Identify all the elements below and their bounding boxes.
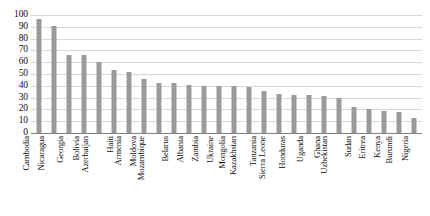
x-axis: CambodiaNicaraguaGeorgiaBoliviaAzerbaija…: [31, 136, 422, 216]
bar-slot: [151, 15, 166, 133]
x-axis-tick-label: Nigeria: [402, 136, 411, 161]
bar-slot: [392, 15, 407, 133]
x-axis-tick-label: Burundi: [386, 136, 395, 163]
bar: [111, 70, 116, 133]
bar: [81, 55, 86, 133]
bar-slot: [272, 15, 287, 133]
x-axis-tick-label: Cambodia: [21, 136, 30, 171]
y-axis-tick-label: 30: [0, 93, 28, 103]
x-axis-tick-label: Honduras: [278, 136, 287, 169]
bar: [292, 95, 297, 133]
bar: [96, 62, 101, 133]
x-axis-tick-label: Mongolia: [218, 136, 227, 169]
bar-slot: [407, 15, 422, 133]
x-axis-tick-label: Mozambique: [137, 136, 146, 180]
x-axis-tick-label: Uzbekistan: [320, 136, 329, 174]
plot-area: [31, 15, 422, 133]
bar-slot: [377, 15, 392, 133]
bar: [322, 96, 327, 133]
y-axis-tick-label: 100: [0, 10, 28, 20]
y-axis-tick-label: 10: [0, 116, 28, 126]
bar: [186, 85, 191, 133]
bar: [412, 118, 417, 133]
bar-slot: [106, 15, 121, 133]
bar: [156, 83, 161, 133]
x-axis-tick-label: Sierra Leone: [258, 136, 267, 179]
y-axis-tick-label: 40: [0, 81, 28, 91]
bar: [171, 83, 176, 133]
y-axis: 0102030405060708090100: [0, 0, 28, 140]
x-axis-tick-label: Kenya: [373, 136, 382, 158]
bar-slot: [76, 15, 91, 133]
bar: [216, 86, 221, 133]
x-axis-tick-label: Azerbaijan: [80, 136, 89, 173]
bar-slot: [302, 15, 317, 133]
bar-slot: [46, 15, 61, 133]
bar-slot: [91, 15, 106, 133]
y-axis-tick-label: 20: [0, 104, 28, 114]
y-axis-tick-label: 80: [0, 34, 28, 44]
bar: [382, 111, 387, 133]
bar-slot: [242, 15, 257, 133]
x-axis-tick-label: Armenia: [114, 136, 123, 165]
chart-plot-wrapper: 0102030405060708090100 CambodiaNicaragua…: [0, 0, 430, 216]
y-axis-tick-label: 50: [0, 69, 28, 79]
x-axis-tick-label: Georgia: [55, 136, 64, 163]
bar-slot: [121, 15, 136, 133]
bar-slot: [227, 15, 242, 133]
bar-slot: [61, 15, 76, 133]
bar: [337, 98, 342, 133]
y-axis-tick-label: 70: [0, 45, 28, 55]
bar-slot: [317, 15, 332, 133]
bar: [66, 55, 71, 133]
bar: [126, 72, 131, 133]
bar: [232, 86, 237, 133]
x-axis-tick-label: Sudan: [344, 136, 353, 157]
bar: [201, 86, 206, 133]
bar: [307, 95, 312, 133]
bar-slot: [347, 15, 362, 133]
x-axis-tick-label: Eritrea: [358, 136, 367, 159]
bar-slot: [332, 15, 347, 133]
y-axis-tick-label: 90: [0, 22, 28, 32]
bar: [352, 107, 357, 133]
bar-slot: [166, 15, 181, 133]
bar-slot: [211, 15, 226, 133]
bar: [51, 26, 56, 133]
bar: [397, 112, 402, 133]
bar: [262, 91, 267, 133]
bar-slot: [136, 15, 151, 133]
y-axis-tick-label: 60: [0, 57, 28, 67]
bar: [36, 19, 41, 133]
bar-slot: [287, 15, 302, 133]
x-axis-tick-label: Kazakhstan: [230, 136, 239, 175]
x-axis-tick-label: Belarus: [161, 136, 170, 162]
bar-slot: [31, 15, 46, 133]
bar-slot: [196, 15, 211, 133]
bar: [247, 87, 252, 133]
bar-chart: 0102030405060708090100 CambodiaNicaragua…: [0, 0, 430, 216]
x-axis-tick-label: Ukraine: [205, 136, 214, 163]
x-axis-tick: Nigeria: [407, 136, 422, 216]
bars-layer: [31, 15, 422, 133]
axis-baseline: [31, 133, 422, 134]
x-axis-tick-label: Zambia: [191, 136, 200, 162]
bar-slot: [181, 15, 196, 133]
bar: [367, 109, 372, 133]
x-axis-tick-label: Nicaragua: [36, 136, 45, 170]
bar: [277, 94, 282, 133]
bar-slot: [362, 15, 377, 133]
bar: [141, 79, 146, 133]
x-axis-tick-label: Albania: [176, 136, 185, 163]
x-axis-tick-label: Uganda: [296, 136, 305, 162]
bar-slot: [257, 15, 272, 133]
